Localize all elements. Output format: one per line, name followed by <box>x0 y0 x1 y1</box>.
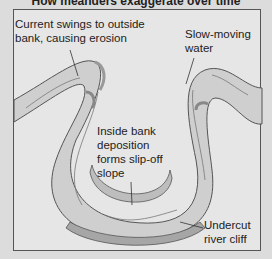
label-inside-bank: Inside bank deposition forms slip-off sl… <box>97 124 163 180</box>
label-outside-bank: Current swings to outside bank, causing … <box>15 17 145 45</box>
label-undercut: Undercut river cliff <box>204 218 251 246</box>
label-slow-water: Slow-moving water <box>185 27 251 55</box>
